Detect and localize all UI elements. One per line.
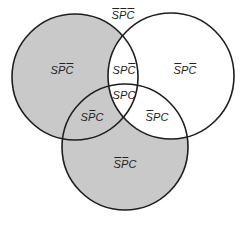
venn-diagram (0, 0, 245, 225)
label-letter-s-complement: S (173, 64, 181, 76)
label-letter-p: P (120, 64, 128, 76)
label-letter-c: C (160, 111, 168, 123)
label-letter-c: C (127, 89, 135, 101)
region-label-C-only: SPC (113, 158, 136, 170)
label-letter-p-complement: P (121, 158, 129, 170)
label-letter-s: S (112, 64, 120, 76)
region-label-S-and-P-only: SPC (112, 64, 135, 76)
region-label-P-and-C-only: SPC (145, 111, 168, 123)
region-label-outside: SPC (111, 9, 134, 21)
label-letter-s: S (112, 89, 120, 101)
region-label-all-three: SPC (112, 89, 135, 101)
label-letter-s: S (80, 111, 88, 123)
label-letter-c-complement: C (65, 64, 73, 76)
label-letter-p-complement: P (88, 111, 96, 123)
label-letter-p-complement: P (119, 9, 127, 21)
label-letter-s-complement: S (113, 158, 121, 170)
region-label-P-only: SPC (173, 64, 196, 76)
label-letter-s: S (50, 64, 58, 76)
label-letter-c: C (128, 158, 136, 170)
region-label-S-and-C-only: SPC (80, 111, 103, 123)
label-letter-p: P (120, 89, 128, 101)
label-letter-s-complement: S (145, 111, 153, 123)
label-letter-c-complement: C (127, 64, 135, 76)
label-letter-s-complement: S (111, 9, 119, 21)
label-letter-c-complement: C (126, 9, 134, 21)
label-letter-p: P (153, 111, 161, 123)
label-letter-p-complement: P (58, 64, 66, 76)
region-label-S-only: SPC (50, 64, 73, 76)
label-letter-c-complement: C (188, 64, 196, 76)
label-letter-p: P (181, 64, 189, 76)
label-letter-c: C (95, 111, 103, 123)
